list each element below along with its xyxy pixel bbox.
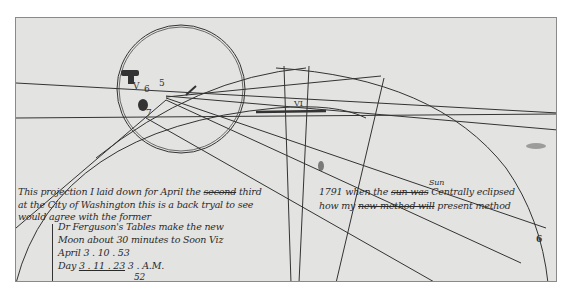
label-6: 6 (144, 84, 150, 94)
note-line-4: Day 3 . 11 . 23 3 . A.M. (58, 260, 164, 271)
label-7: 7 (146, 108, 152, 118)
manuscript-scan: V 6 5 7 VI 6 Sun This projection I laid … (15, 17, 557, 282)
label-6-right: 6 (536, 234, 542, 244)
label-vi: VI (294, 99, 303, 108)
note-bracket (52, 224, 53, 282)
note-line-3: April 3 . 10 . 53 (58, 247, 130, 258)
note-line-5: 52 (134, 272, 145, 282)
note-line-2: Moon about 30 minutes to Soon Viz (58, 234, 223, 245)
text-line-2: at the City of Washington this is a back… (18, 199, 253, 210)
label-5: 5 (159, 78, 165, 88)
text-line-2-right: how my new method will present method (319, 200, 511, 211)
note-line-1: Dr Ferguson's Tables make the new (58, 221, 224, 232)
text-line-1: This projection I laid down for April th… (18, 186, 262, 197)
text-line-1-right: 1791 when the sun was Centrally eclipsed (319, 186, 515, 197)
label-v: V (133, 81, 140, 91)
